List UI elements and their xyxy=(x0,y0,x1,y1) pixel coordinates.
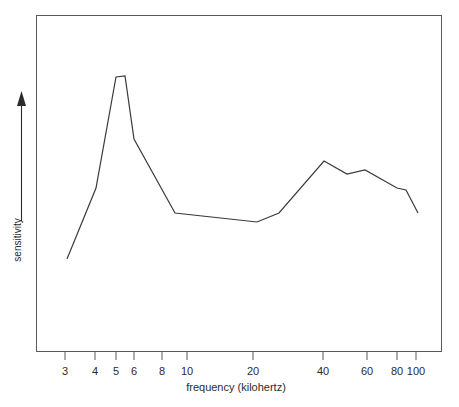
x-tick-label: 5 xyxy=(113,365,119,377)
y-arrow-head-icon xyxy=(17,91,26,106)
x-tick-label: 60 xyxy=(361,365,373,377)
x-axis-tick-labels: 3 4 5 6 8 10 20 40 60 80 100 xyxy=(62,365,425,377)
x-tick-label: 3 xyxy=(62,365,68,377)
x-tick-label: 8 xyxy=(159,365,165,377)
sensitivity-curve xyxy=(67,76,418,259)
x-tick-label: 100 xyxy=(407,365,425,377)
x-tick-label: 40 xyxy=(317,365,329,377)
y-axis-title: sensitivity xyxy=(12,218,23,261)
x-tick-label: 10 xyxy=(181,365,193,377)
x-axis-title: frequency (kilohertz) xyxy=(186,381,286,393)
sensitivity-frequency-figure: 3 4 5 6 8 10 20 40 60 80 100 frequency (… xyxy=(0,0,459,407)
x-tick-label: 6 xyxy=(131,365,137,377)
x-tick-label: 4 xyxy=(92,365,98,377)
x-tick-label: 80 xyxy=(391,365,403,377)
chart-canvas: 3 4 5 6 8 10 20 40 60 80 100 frequency (… xyxy=(0,0,459,407)
y-axis-arrow xyxy=(17,91,26,221)
x-axis-ticks xyxy=(65,352,416,360)
x-tick-label: 20 xyxy=(247,365,259,377)
